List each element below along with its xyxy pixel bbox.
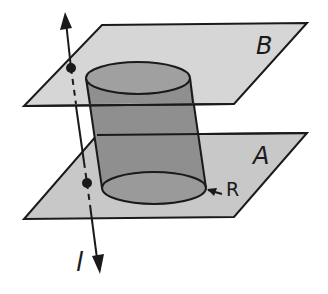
label-plane-a: A [251,142,269,170]
label-region-r: R [226,178,239,200]
geometry-diagram: B A R l [0,0,328,294]
label-line-l: l [76,247,84,277]
region-r-base [102,172,206,204]
cylinder-top [86,62,190,94]
intersection-point-a [82,178,92,188]
intersection-point-b [66,63,76,73]
arrow-up-icon [60,12,72,30]
label-plane-b: B [256,32,272,60]
arrow-down-icon [92,254,104,274]
